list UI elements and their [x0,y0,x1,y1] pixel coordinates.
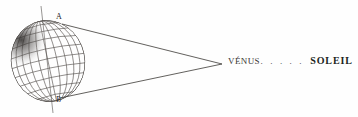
pole-label-south: B [56,96,61,104]
caption-soleil-label: SOLEIL [310,55,353,66]
caption-separator-dots: . . . . . [261,56,305,66]
pole-label-north: A [56,13,62,21]
caption: VÉNUS . . . . . SOLEIL [228,55,353,66]
figure-page: A B VÉNUS . . . . . SOLEIL [0,0,358,117]
caption-venus-label: VÉNUS [228,56,260,66]
globe [3,13,92,109]
